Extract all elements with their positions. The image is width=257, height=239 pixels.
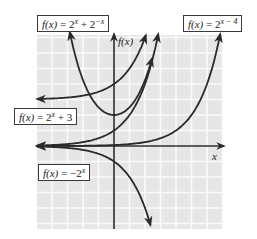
label-eq: = −2 [58, 167, 81, 179]
label-reflection: f(x) = −2x [38, 164, 90, 181]
label-fx: f(x) [42, 18, 57, 30]
label-fx: f(x) [19, 111, 34, 123]
label-cosh-like: f(x) = 2x + 2−x [37, 15, 109, 32]
label-exp: x − 4 [220, 17, 237, 26]
label-shifted-exp: f(x) = 2x − 4 [183, 15, 242, 32]
label-plus: + 3 [55, 111, 72, 123]
label-exp: x [82, 166, 86, 175]
y-axis-label: f(x) [118, 35, 133, 47]
label-fx: f(x) [43, 167, 58, 179]
label-eq: = 2 [34, 111, 51, 123]
label-eq: = 2 [203, 18, 220, 30]
label-vertical-shift: f(x) = 2x + 3 [14, 108, 77, 125]
label-eq: = 2 [57, 18, 74, 30]
label-fx: f(x) [188, 18, 203, 30]
label-exp2: −x [95, 17, 104, 26]
x-axis-label: x [212, 150, 217, 162]
label-plus: + 2 [78, 18, 95, 30]
